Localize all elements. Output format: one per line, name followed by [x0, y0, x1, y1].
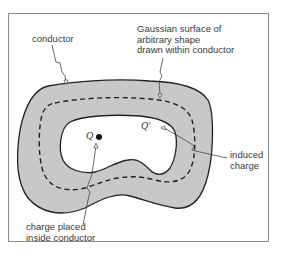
symbol-q-prime: Q' [141, 120, 150, 131]
label-conductor: conductor [32, 34, 74, 45]
conductor-body [18, 80, 213, 213]
label-gaussian-surface: Gaussian surface of arbitrary shape draw… [137, 24, 234, 56]
label-charge-placed: charge placed inside conductor [26, 222, 95, 243]
leader-conductor [52, 45, 66, 83]
label-induced-charge: induced charge [230, 150, 263, 171]
symbol-q: Q [86, 130, 93, 141]
leader-induced-arrow [161, 126, 166, 130]
leader-charge-arrow [94, 143, 98, 148]
point-charge-dot [96, 134, 102, 140]
